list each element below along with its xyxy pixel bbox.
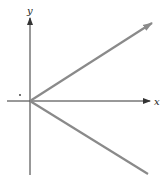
lower-ray (30, 101, 148, 174)
y-axis-label: y (26, 5, 33, 16)
marker-dot (19, 94, 21, 96)
x-axis-label: x (154, 96, 160, 107)
upper-ray (30, 23, 152, 101)
coordinate-diagram: x y (0, 0, 163, 175)
